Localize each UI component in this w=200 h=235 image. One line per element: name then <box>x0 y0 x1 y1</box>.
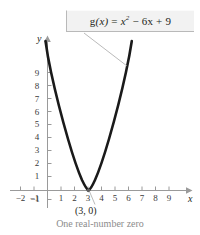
x-axis-label: x <box>188 193 192 204</box>
figure-caption: One real-number zero <box>0 218 200 229</box>
x-tick-label: 4 <box>96 193 108 203</box>
equation-var: x <box>99 15 104 27</box>
y-tick-label: 6 <box>31 107 43 117</box>
x-tick-label: 5 <box>109 193 121 203</box>
y-tick-label: 3 <box>31 145 43 155</box>
equation-tail: − 6x + 9 <box>129 15 171 27</box>
x-tick-label: 2 <box>69 193 81 203</box>
y-tick-label: 1 <box>31 171 43 181</box>
vertex-point-label: (3, 0) <box>75 205 97 216</box>
y-tick-label: 4 <box>31 132 43 142</box>
x-tick-label: −1 <box>27 193 42 203</box>
x-tick-label: 1 <box>55 193 67 203</box>
x-tick-label: 8 <box>150 193 162 203</box>
y-tick-label: 9 <box>31 68 43 78</box>
x-axis-ticks <box>21 187 170 191</box>
y-axis-ticks <box>48 73 52 200</box>
parabola-figure: g(x) = x2 − 6x + 9 9 8 7 6 5 4 3 2 1 −1 … <box>0 0 200 235</box>
parabola-curve <box>46 41 132 190</box>
y-axis-label: y <box>37 33 41 44</box>
equation-callout: g(x) = x2 − 6x + 9 <box>66 10 194 32</box>
x-tick-label: −2 <box>13 193 28 203</box>
equation-text: g(x) = x2 − 6x + 9 <box>90 15 171 27</box>
equation-g: g <box>90 15 96 27</box>
y-tick-label: 2 <box>31 158 43 168</box>
x-tick-label: 3 <box>82 193 94 203</box>
x-tick-label: 9 <box>163 193 175 203</box>
y-tick-label: 7 <box>31 94 43 104</box>
callout-leader-line <box>84 33 127 66</box>
x-tick-label: 7 <box>136 193 148 203</box>
y-tick-label: 8 <box>31 81 43 91</box>
y-tick-label: 5 <box>31 119 43 129</box>
x-tick-label: 6 <box>123 193 135 203</box>
